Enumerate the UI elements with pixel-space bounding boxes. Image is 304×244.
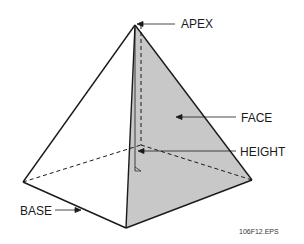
shaded-face (126, 25, 252, 228)
apex-label: APEX (181, 18, 213, 30)
face-label: FACE (241, 112, 272, 124)
figure-id: 106F12.EPS (239, 228, 279, 235)
base-label: BASE (20, 205, 52, 217)
height-label: HEIGHT (240, 146, 285, 158)
pyramid-diagram: APEX FACE HEIGHT BASE 106F12.EPS (0, 0, 304, 244)
